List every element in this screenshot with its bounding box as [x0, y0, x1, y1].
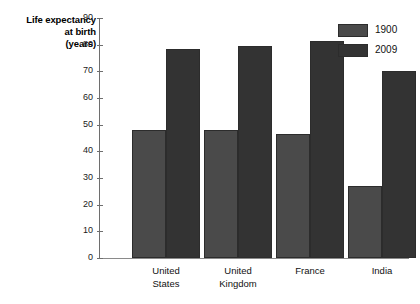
- y-axis-tick-label: 80: [83, 39, 93, 50]
- y-axis-tick-label: 10: [83, 225, 93, 236]
- bar-chart-figure: Life expectancy at birth (years) 0102030…: [0, 0, 420, 304]
- y-axis-tick: 80: [99, 45, 107, 46]
- y-axis-tick: 30: [99, 178, 107, 179]
- y-axis-tick-label: 60: [83, 92, 93, 103]
- x-axis-line: [99, 258, 409, 259]
- y-axis-tick: 50: [99, 125, 107, 126]
- y-axis-tick-mark: [97, 45, 103, 46]
- y-axis-tick-mark: [97, 98, 103, 99]
- bar: [204, 130, 238, 258]
- y-axis-tick: 90: [99, 18, 107, 19]
- y-axis-line: [99, 18, 100, 258]
- bar: [382, 71, 416, 258]
- x-axis-category-label-line: India: [327, 264, 420, 277]
- bar: [238, 46, 272, 258]
- y-axis-tick-mark: [97, 125, 103, 126]
- legend-swatch: [338, 44, 368, 57]
- y-axis-tick: 10: [99, 231, 107, 232]
- legend-label: 1900: [375, 24, 397, 36]
- y-axis-tick-mark: [97, 18, 103, 19]
- bar: [166, 49, 200, 258]
- legend-swatch: [338, 24, 368, 37]
- y-axis-tick-mark: [97, 151, 103, 152]
- y-axis-tick: 70: [99, 71, 107, 72]
- y-axis-tick-label: 70: [83, 65, 93, 76]
- y-axis-tick-mark: [97, 258, 103, 259]
- y-axis-tick-label: 50: [83, 119, 93, 130]
- chart-legend: 19002009: [338, 22, 416, 62]
- bar-group: [132, 18, 200, 258]
- y-axis-tick-label: 40: [83, 145, 93, 156]
- y-axis-tick: 60: [99, 98, 107, 99]
- y-axis-tick-mark: [97, 231, 103, 232]
- y-axis-tick-label: 30: [83, 172, 93, 183]
- bar: [348, 186, 382, 258]
- bar: [276, 134, 310, 258]
- y-axis-tick: 40: [99, 151, 107, 152]
- legend-item: 2009: [338, 42, 416, 58]
- bar: [132, 130, 166, 258]
- legend-item: 1900: [338, 22, 416, 38]
- y-axis-tick-label: 90: [83, 12, 93, 23]
- bar: [310, 41, 344, 258]
- legend-label: 2009: [375, 44, 397, 56]
- x-axis-category-label-line: Kingdom: [183, 277, 293, 290]
- x-axis-category-label: India: [327, 264, 420, 277]
- y-axis-tick: 20: [99, 205, 107, 206]
- bar-group: [204, 18, 272, 258]
- y-axis-tick-mark: [97, 205, 103, 206]
- y-axis-tick-mark: [97, 178, 103, 179]
- y-axis-tick-label: 0: [88, 252, 93, 263]
- y-axis-tick-mark: [97, 71, 103, 72]
- y-axis-tick-label: 20: [83, 199, 93, 210]
- y-axis-title-line-2: at birth: [4, 26, 96, 38]
- bar-group: [276, 18, 344, 258]
- y-axis-tick: 0: [99, 258, 107, 259]
